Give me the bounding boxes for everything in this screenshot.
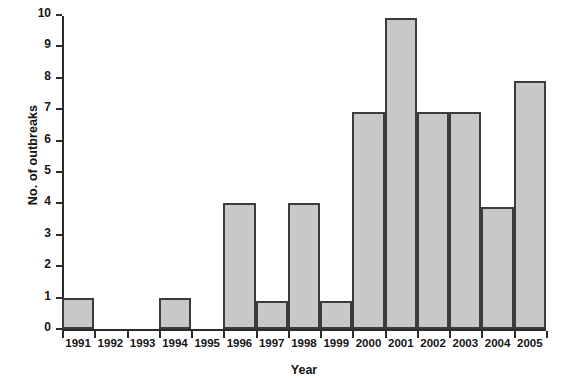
- y-axis-tick: 1: [56, 297, 62, 299]
- bar-slot: [449, 15, 481, 329]
- y-axis-tick-label: 10: [38, 6, 51, 20]
- y-axis-tick: 6: [56, 140, 62, 142]
- x-tick-label-1996: 1996: [223, 337, 255, 349]
- bar-1996[interactable]: [223, 203, 255, 329]
- y-axis-tick: 10: [56, 14, 62, 16]
- x-tick-labels: 1991199219931994199519961997199819992000…: [62, 337, 546, 355]
- bar-1999[interactable]: [320, 301, 352, 329]
- y-axis-tick-label: 9: [44, 37, 51, 51]
- bar-2005[interactable]: [514, 81, 546, 329]
- bar-1997[interactable]: [256, 301, 288, 329]
- x-tick-label-1992: 1992: [94, 337, 126, 349]
- y-axis-tick: 3: [56, 234, 62, 236]
- y-axis-tick: 8: [56, 77, 62, 79]
- bar-slot: [223, 15, 255, 329]
- y-axis-tick-label: 5: [44, 163, 51, 177]
- y-axis-tick-label: 4: [44, 194, 51, 208]
- y-axis-tick: 0: [56, 328, 62, 330]
- x-tick-label-2004: 2004: [481, 337, 513, 349]
- x-tick-label-2003: 2003: [449, 337, 481, 349]
- x-tick-label-2005: 2005: [514, 337, 546, 349]
- x-tick-label-1995: 1995: [191, 337, 223, 349]
- x-tick-label-1999: 1999: [320, 337, 352, 349]
- bar-chart: No. of outbreaks 012345678910 1991199219…: [0, 0, 566, 388]
- x-tick-label-1997: 1997: [256, 337, 288, 349]
- y-axis-tick-label: 1: [44, 289, 51, 303]
- x-axis-title: Year: [62, 363, 546, 377]
- y-axis-tick-label: 7: [44, 100, 51, 114]
- y-axis-tick: 5: [56, 171, 62, 173]
- y-axis-tick: 9: [56, 45, 62, 47]
- y-axis-title: No. of outbreaks: [26, 65, 40, 245]
- y-axis-tick-label: 2: [44, 257, 51, 271]
- bar-slot: [352, 15, 384, 329]
- bar-slot: [256, 15, 288, 329]
- bar-slot: [62, 15, 94, 329]
- bar-series: [62, 15, 546, 329]
- x-tick-label-1993: 1993: [127, 337, 159, 349]
- bar-2004[interactable]: [481, 207, 513, 329]
- y-axis-tick-label: 6: [44, 132, 51, 146]
- plot-area: 012345678910: [62, 16, 545, 331]
- y-axis-tick: 7: [56, 108, 62, 110]
- bar-slot: [159, 15, 191, 329]
- bar-2000[interactable]: [352, 112, 384, 329]
- bar-2002[interactable]: [417, 112, 449, 329]
- y-axis-tick-label: 0: [44, 320, 51, 334]
- bar-slot: [320, 15, 352, 329]
- bar-slot: [417, 15, 449, 329]
- bar-1991[interactable]: [62, 298, 94, 329]
- bar-2001[interactable]: [385, 18, 417, 329]
- bar-2003[interactable]: [449, 112, 481, 329]
- x-tick-label-1991: 1991: [62, 337, 94, 349]
- bar-slot: [127, 15, 159, 329]
- bar-slot: [94, 15, 126, 329]
- x-tick-label-2001: 2001: [385, 337, 417, 349]
- y-axis-tick-label: 3: [44, 226, 51, 240]
- x-tick-label-1994: 1994: [159, 337, 191, 349]
- y-axis-tick: 4: [56, 202, 62, 204]
- y-axis-tick-label: 8: [44, 69, 51, 83]
- bar-slot: [481, 15, 513, 329]
- x-tick-label-2000: 2000: [352, 337, 384, 349]
- bar-slot: [385, 15, 417, 329]
- x-tick-label-1998: 1998: [288, 337, 320, 349]
- y-axis-tick: 2: [56, 265, 62, 267]
- bar-slot: [288, 15, 320, 329]
- bar-slot: [191, 15, 223, 329]
- bar-1994[interactable]: [159, 298, 191, 329]
- bar-slot: [514, 15, 546, 329]
- x-tick-label-2002: 2002: [417, 337, 449, 349]
- x-axis-tick: [546, 331, 548, 338]
- x-axis-line: [62, 329, 546, 331]
- bar-1998[interactable]: [288, 203, 320, 329]
